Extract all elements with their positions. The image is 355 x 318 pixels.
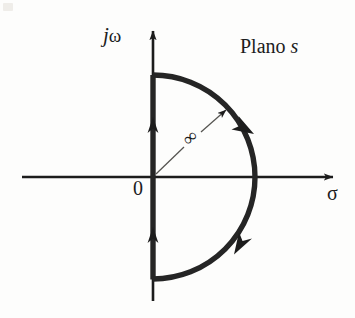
radius-indicator-outer-line: [201, 110, 226, 132]
nyquist-diagram-canvas: [0, 0, 355, 318]
plane-label-text: Plano: [240, 35, 286, 57]
origin-label: 0: [133, 178, 143, 198]
imaginary-axis-label-omega: ω: [109, 25, 122, 46]
imaginary-axis-label: jω: [103, 25, 121, 46]
real-axis-label: σ: [327, 183, 338, 203]
radius-indicator-inner-line: [156, 147, 184, 174]
plane-label: Plano s: [240, 36, 298, 56]
nyquist-contour-figure: jω σ Plano s 0 ∞: [0, 0, 355, 318]
plane-label-variable: s: [291, 35, 299, 57]
